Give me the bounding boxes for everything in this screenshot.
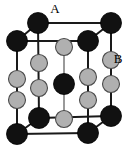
atom-a-top-front-left [7, 31, 28, 52]
atom-label-b: B [114, 51, 123, 66]
unit-cell-canvas: A B [0, 0, 130, 150]
atom-a-top-front-right [78, 31, 99, 52]
atom-a-bot-back-left [29, 108, 50, 129]
atom-b-col1-upper [9, 71, 26, 88]
atom-b-col4-lower [80, 92, 97, 109]
atom-b-col2-upper [31, 55, 48, 72]
atom-a-bot-front-right [78, 123, 99, 144]
atom-a-bot-back-right [101, 106, 122, 127]
crystal-structure-figure: A B [0, 0, 130, 150]
atom-b-bottom-center [56, 111, 73, 128]
atom-a-bot-front-left [7, 124, 28, 145]
atom-group-mid [54, 74, 75, 95]
atom-b-col4-upper [80, 69, 97, 86]
atom-label-a: A [50, 1, 60, 16]
atom-b-col2-lower [31, 80, 48, 97]
atom-a-body-center [54, 74, 75, 95]
atom-b-col5-lower [103, 76, 120, 93]
atom-a-top-back-right [101, 13, 122, 34]
atom-a-top-back-left [28, 13, 49, 34]
atom-b-col1-lower [9, 92, 26, 109]
atom-b-top-center-back [56, 39, 73, 56]
